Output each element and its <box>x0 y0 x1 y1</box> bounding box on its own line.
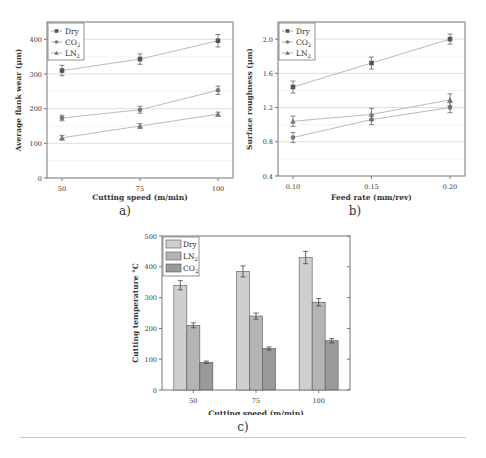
circle-marker-icon <box>291 135 296 140</box>
y-tick-label: 100 <box>30 140 42 148</box>
chart-c-plot: 01002003004005005075100Cutting speed (m/… <box>110 225 370 415</box>
divider <box>20 437 466 438</box>
square-marker-icon <box>448 37 453 42</box>
y-tick-label: 2.0 <box>263 36 273 44</box>
y-tick-label: 0.4 <box>263 173 273 181</box>
square-marker-icon <box>55 29 59 33</box>
chart-c: 01002003004005005075100Cutting speed (m/… <box>110 225 370 415</box>
y-tick-label: 200 <box>30 105 42 113</box>
x-tick-label: 75 <box>136 185 144 193</box>
circle-marker-icon <box>286 40 290 44</box>
legend: DryCO2LN2 <box>48 23 84 60</box>
y-tick-label: 0 <box>153 387 157 395</box>
square-marker-icon <box>60 68 65 73</box>
y-tick-label: 0.8 <box>263 138 273 146</box>
x-axis-label: Cutting speed (m/min) <box>208 409 303 415</box>
y-tick-label: 300 <box>30 71 42 79</box>
x-tick-label: 75 <box>252 397 260 405</box>
legend-label: Dry <box>183 240 198 249</box>
bar-ln2 <box>250 316 263 390</box>
x-tick-label: 50 <box>189 397 197 405</box>
circle-marker-icon <box>138 107 143 112</box>
square-marker-icon <box>286 29 290 33</box>
legend: DryCO2LN2 <box>279 23 315 60</box>
y-tick-label: 500 <box>145 233 157 241</box>
x-axis-label: Cutting speed (m/min) <box>92 193 187 202</box>
bar-co2 <box>325 341 338 390</box>
bar-dry <box>299 258 312 390</box>
chart-a: 01002003004005075100Cutting speed (m/min… <box>0 0 243 215</box>
legend-label: Dry <box>65 27 80 36</box>
y-tick-label: 400 <box>30 36 42 44</box>
x-axis-label: Feed rate (mm/rev) <box>331 193 412 202</box>
x-tick-label: 100 <box>312 397 324 405</box>
bar-dry <box>174 285 187 390</box>
square-marker-icon <box>216 38 221 43</box>
bar-co2 <box>200 362 213 390</box>
legend-swatch <box>166 240 181 248</box>
circle-marker-icon <box>216 88 221 93</box>
bar-ln2 <box>187 325 200 390</box>
chart-b-plot: 0.40.81.21.62.00.100.150.20Feed rate (mm… <box>243 0 486 215</box>
x-tick-label: 0.15 <box>364 183 378 191</box>
y-tick-label: 300 <box>145 294 157 302</box>
y-tick-label: 100 <box>145 356 157 364</box>
triangle-marker-icon <box>447 97 453 102</box>
bar-co2 <box>263 348 276 390</box>
square-marker-icon <box>291 85 296 90</box>
y-axis-label: Average flank wear (μm) <box>14 49 23 153</box>
y-tick-label: 1.6 <box>263 70 273 78</box>
circle-marker-icon <box>55 40 59 44</box>
circle-marker-icon <box>60 116 65 121</box>
legend-label: Dry <box>296 27 311 36</box>
y-tick-label: 0 <box>38 175 42 183</box>
square-marker-icon <box>369 61 374 66</box>
chart-b: 0.40.81.21.62.00.100.150.20Feed rate (mm… <box>243 0 486 215</box>
x-tick-label: 0.10 <box>286 183 300 191</box>
legend: DryLN2CO2 <box>163 237 199 276</box>
square-marker-icon <box>138 57 143 62</box>
bar-dry <box>237 271 250 390</box>
x-tick-label: 0.20 <box>443 183 457 191</box>
y-tick-label: 1.2 <box>263 104 273 112</box>
y-tick-label: 200 <box>145 325 157 333</box>
legend-swatch <box>166 252 181 260</box>
legend-swatch <box>166 264 181 272</box>
bar-ln2 <box>312 302 325 390</box>
chart-a-plot: 01002003004005075100Cutting speed (m/min… <box>0 0 243 215</box>
y-axis-label: Cutting temperature °C <box>131 263 140 363</box>
x-tick-label: 100 <box>212 185 224 193</box>
caption-b: b) <box>340 204 370 218</box>
x-tick-label: 50 <box>58 185 66 193</box>
caption-a: a) <box>110 204 140 218</box>
y-axis-label: Surface roughness (μm) <box>245 48 254 150</box>
y-tick-label: 400 <box>145 263 157 271</box>
caption-c: c) <box>228 420 258 434</box>
